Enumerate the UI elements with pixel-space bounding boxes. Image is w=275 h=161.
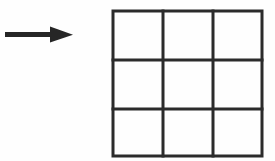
- grid-cell-r2c1: [115, 62, 162, 108]
- grid-cell-r2c2: [165, 62, 212, 108]
- grid-cell-r1c2: [165, 13, 212, 59]
- grid-cell-r1c1: [115, 13, 162, 59]
- 3x3-grid: [113, 11, 262, 156]
- grid-cell-r1c3: [215, 13, 261, 59]
- grid-cell-r3c2: [165, 111, 212, 155]
- figure-svg: [0, 0, 275, 161]
- grid-cell-r2c3: [215, 62, 261, 108]
- grid-cells: [115, 13, 261, 155]
- grid-cell-r3c3: [215, 111, 261, 155]
- diagram-canvas: Arrow pointing to empty 3x3 grid: [0, 0, 275, 161]
- grid-cell-r3c1: [115, 111, 162, 155]
- arrow-shaft: [5, 32, 55, 37]
